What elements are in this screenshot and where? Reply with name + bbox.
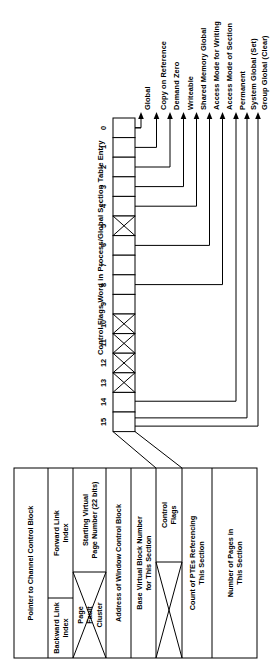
- entry-field-row-6: Count of PTEs Referencing This Section: [188, 468, 207, 658]
- flag-label-system-global-set: System Global (Set): [250, 38, 257, 110]
- callout-arrowhead-8: [244, 112, 250, 119]
- callout-arrowhead-4: [194, 112, 200, 119]
- callout-arrowhead-7: [233, 112, 239, 119]
- bit-cell-3: [113, 177, 135, 197]
- bit-cell-6: [113, 236, 135, 256]
- entry-field-row-5-primary: Control Flags: [160, 468, 179, 562]
- callout-arrowhead-1: [154, 112, 160, 119]
- entry-field-row-2-secondary: Page Fault Cluster: [76, 572, 104, 658]
- flag-label-shared-memory-global: Shared Memory Global: [200, 28, 207, 111]
- expansion-connector-left: [113, 432, 156, 468]
- flag-label-writeable: Writeable: [187, 76, 194, 110]
- flag-label-global: Global: [144, 86, 151, 110]
- flag-label-demand-zero: Demand Zero: [173, 62, 180, 110]
- entry-field-row-2-primary: Starting Virtual Page Number (22 bits): [80, 468, 99, 572]
- expansion-connector-right: [135, 432, 182, 468]
- bit-cell-4: [113, 196, 135, 216]
- flag-label-access-mode-of-section: Access Mode of Section: [226, 23, 233, 110]
- bit-cell-0: [113, 118, 135, 138]
- callout-arrowhead-5: [207, 112, 213, 119]
- bit-cell-7: [113, 255, 135, 275]
- callout-arrowhead-3: [181, 112, 187, 119]
- figure-title: Control Flags Word in Process/Global Sec…: [96, 140, 105, 355]
- bit-cell-14: [113, 392, 135, 412]
- bit-cell-9: [113, 294, 135, 314]
- bit-number-15: 15: [99, 418, 108, 426]
- callout-arrowhead-9: [255, 112, 261, 119]
- bit-cell-1: [113, 138, 135, 158]
- bit-cell-8: [113, 275, 135, 295]
- bit-number-14: 14: [99, 398, 108, 406]
- bit-cell-15: [113, 412, 135, 432]
- entry-field-row-0: Pointer to Channel Control Block: [26, 468, 35, 658]
- callout-arrowhead-0: [138, 112, 144, 119]
- flag-label-permanent: Permanent: [239, 71, 246, 110]
- entry-field-row-4: Base Virtual Block Number for This Secti…: [134, 468, 153, 658]
- entry-field-row-1-secondary: Backward Link Index: [51, 598, 70, 658]
- bit-number-12: 12: [99, 359, 108, 367]
- callout-arrowhead-6: [220, 112, 226, 119]
- callout-arrowhead-2: [167, 112, 173, 119]
- bit-number-13: 13: [99, 378, 108, 386]
- bit-cell-2: [113, 157, 135, 177]
- entry-field-row-1-primary: Forward Link Index: [51, 468, 70, 598]
- flag-label-copy-on-reference: Copy on Reference: [160, 41, 167, 110]
- entry-field-row-3: Address of Window Control Block: [114, 468, 123, 658]
- entry-field-row-7: Number of Pages in This Section: [225, 468, 244, 658]
- bit-number-0: 0: [99, 126, 108, 130]
- flag-label-access-mode-for-writing: Access Mode for Writing: [213, 21, 220, 110]
- flag-label-group-global-clear: Group Global (Clear): [261, 35, 268, 110]
- figure-canvas: 0123456789101112131415GlobalCopy on Refe…: [0, 0, 271, 672]
